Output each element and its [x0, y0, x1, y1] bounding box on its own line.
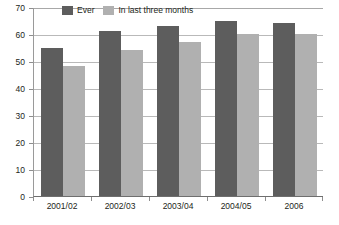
- y-axis-label-70: 70: [16, 4, 25, 13]
- x-axis-label-2006: 2006: [285, 201, 304, 212]
- legend-swatch-ever-icon: [62, 6, 73, 15]
- legend-swatch-in-last-three-months-icon: [103, 6, 114, 15]
- bar-2004-05-ever: [215, 21, 237, 197]
- bar-2003-04-ever: [157, 26, 179, 196]
- bar-chart: Ever In last three months 01020304050607…: [0, 0, 339, 225]
- legend-label-ever: Ever: [77, 6, 94, 15]
- bar-2001-02-in-last-three-months: [63, 66, 85, 196]
- y-axis-label-10: 10: [16, 166, 25, 175]
- y-axis-label-30: 30: [16, 112, 25, 121]
- y-axis-tick-labels: 010203040506070: [0, 8, 29, 197]
- caption-strip: [6, 216, 206, 223]
- y-axis-label-0: 0: [20, 193, 25, 202]
- bar-2004-05-in-last-three-months: [237, 34, 259, 196]
- bar-2002-03-ever: [99, 31, 121, 196]
- y-axis-label-40: 40: [16, 85, 25, 94]
- bar-2006-in-last-three-months: [295, 34, 317, 196]
- legend-item-ever: Ever: [62, 6, 94, 15]
- bar-2003-04-in-last-three-months: [179, 42, 201, 196]
- x-axis-label-2002-03: 2002/03: [105, 201, 136, 212]
- x-axis-tick-labels: 2001/022002/032003/042004/052006: [33, 201, 323, 213]
- chart-legend: Ever In last three months: [62, 5, 193, 16]
- bar-2002-03-in-last-three-months: [121, 50, 143, 196]
- y-axis-label-60: 60: [16, 31, 25, 40]
- y-axis-label-20: 20: [16, 139, 25, 148]
- legend-label-in-last-three-months: In last three months: [118, 6, 193, 15]
- plot-area: [33, 8, 323, 197]
- y-axis-label-50: 50: [16, 58, 25, 67]
- bar-2006-ever: [273, 23, 295, 196]
- bar-2001-02-ever: [41, 48, 63, 197]
- x-axis-label-2001-02: 2001/02: [47, 201, 78, 212]
- x-axis-label-2004-05: 2004/05: [221, 201, 252, 212]
- x-axis-label-2003-04: 2003/04: [163, 201, 194, 212]
- legend-item-in-last-three-months: In last three months: [103, 6, 193, 15]
